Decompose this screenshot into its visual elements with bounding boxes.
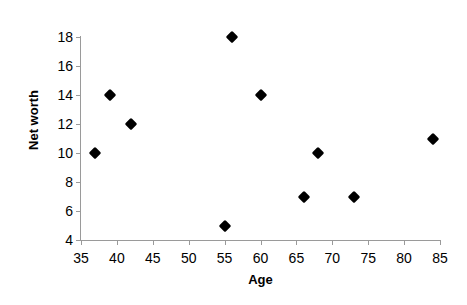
x-tick-label: 75 <box>360 251 376 265</box>
x-tick-label: 35 <box>73 251 89 265</box>
x-tick-label: 40 <box>109 251 125 265</box>
data-point <box>103 89 116 102</box>
y-tick-label: 16 <box>57 59 73 73</box>
y-tick-label: 10 <box>57 146 73 160</box>
x-tick-label: 55 <box>217 251 233 265</box>
data-point <box>254 89 267 102</box>
y-tick-label: 6 <box>65 204 73 218</box>
y-tick-mark <box>76 66 81 67</box>
y-tick-label: 14 <box>57 88 73 102</box>
plot-area: 4681012141618 3540455055606570758085 <box>81 37 440 240</box>
x-tick-label: 70 <box>325 251 341 265</box>
x-tick-mark <box>261 240 262 245</box>
y-tick-label: 18 <box>57 30 73 44</box>
x-tick-mark <box>117 240 118 245</box>
x-axis-title: Age <box>81 272 440 287</box>
x-tick-mark <box>189 240 190 245</box>
y-tick-mark <box>76 124 81 125</box>
data-point <box>225 31 238 44</box>
y-tick-mark <box>76 37 81 38</box>
y-tick-label: 12 <box>57 117 73 131</box>
y-tick-label: 8 <box>65 175 73 189</box>
x-tick-label: 80 <box>396 251 412 265</box>
y-tick-label: 4 <box>65 233 73 247</box>
x-tick-mark <box>296 240 297 245</box>
x-tick-mark <box>153 240 154 245</box>
y-tick-mark <box>76 211 81 212</box>
x-tick-mark <box>225 240 226 245</box>
scatter-chart: Net worth 4681012141618 3540455055606570… <box>0 0 467 305</box>
x-tick-mark <box>81 240 82 245</box>
y-tick-mark <box>76 153 81 154</box>
x-tick-mark <box>368 240 369 245</box>
data-point <box>347 190 360 203</box>
data-point <box>218 219 231 232</box>
x-tick-label: 60 <box>253 251 269 265</box>
data-point <box>426 132 439 145</box>
data-point <box>89 147 102 160</box>
y-axis-title: Net worth <box>18 0 48 240</box>
x-tick-mark <box>440 240 441 245</box>
x-tick-label: 85 <box>432 251 448 265</box>
x-tick-mark <box>332 240 333 245</box>
data-point <box>125 118 138 131</box>
x-tick-label: 45 <box>145 251 161 265</box>
data-point <box>312 147 325 160</box>
y-tick-mark <box>76 95 81 96</box>
y-tick-mark <box>76 182 81 183</box>
data-point <box>297 190 310 203</box>
x-tick-label: 50 <box>181 251 197 265</box>
x-tick-label: 65 <box>289 251 305 265</box>
x-tick-mark <box>404 240 405 245</box>
